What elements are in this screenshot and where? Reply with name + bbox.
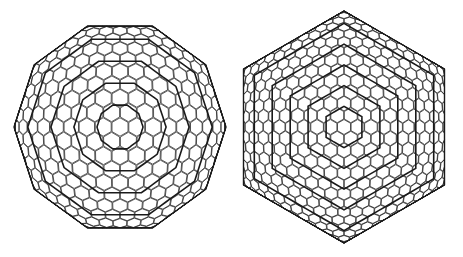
- shell-ring: [51, 61, 189, 192]
- right-fullerene-wireframe: [231, 0, 463, 257]
- cage-outline: [14, 26, 226, 228]
- left-fullerene-wireframe: [0, 0, 231, 257]
- shell-ring: [290, 65, 398, 189]
- shell-ring: [97, 105, 143, 149]
- shell-ring: [74, 83, 166, 171]
- cage-mesh: [244, 11, 445, 243]
- shell-ring: [308, 86, 380, 169]
- right-cage-panel: [231, 0, 463, 257]
- shell-ring: [28, 39, 212, 214]
- left-cage-panel: [0, 0, 231, 257]
